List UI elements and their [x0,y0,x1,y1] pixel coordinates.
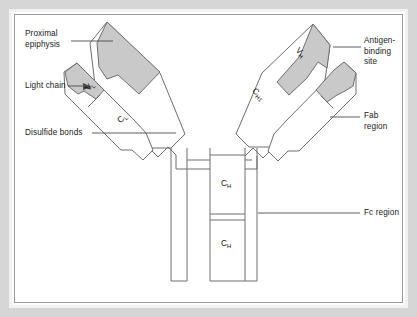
domain-label-ch-upper: CH [221,178,231,188]
label-disulfide-bonds: Disulfide bonds [25,128,82,139]
domain-label-ch-lower: CH [221,238,231,248]
fc-stem-outer-right [245,148,257,281]
label-fab-region: Fab region [364,111,387,132]
label-fc-region: Fc region [364,208,399,219]
label-antigen-binding-site: Antigen- binding site [364,36,395,68]
label-light-chain: Light chain [25,81,66,92]
label-proximal-epiphysis: Proximal epiphysis [25,29,60,50]
fc-stem-left-chain [171,148,187,281]
domain-sub: H [227,183,231,189]
fc-stem-right-chain [210,148,245,281]
domain-sub: H [227,243,231,249]
antibody-diagram: .chain { fill:#ffffff; stroke:#6e6e6e; s… [0,0,417,317]
figure-canvas: .chain { fill:#ffffff; stroke:#6e6e6e; s… [0,0,417,317]
